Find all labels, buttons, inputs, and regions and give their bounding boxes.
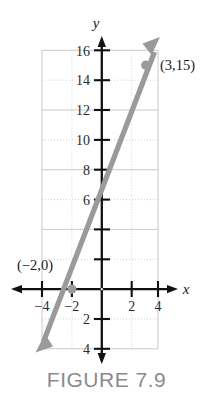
y-tick-label-16: 16 [76,44,90,59]
point-marker-3-15 [141,61,150,70]
y-tick-label-10: 10 [76,133,90,148]
figure-caption: FIGURE 7.9 [0,368,213,392]
line-arrow-lower-left [36,334,54,353]
x-tick-label-neg4: −4 [35,299,50,314]
y-tick-label-6: 6 [83,193,90,208]
x-tick-label-4: 4 [155,299,162,314]
y-tick-label-8: 8 [83,163,90,178]
x-tick-label-2: 2 [128,299,135,314]
graphed-line [36,37,161,353]
y-tick-label-14: 14 [76,73,90,88]
x-tick-label-neg2: −2 [64,299,79,314]
y-tick-label-12: 12 [76,103,90,118]
y-axis-arrow-up [98,36,106,47]
figure-container: 16 14 12 10 8 6 2 4 −4 −2 2 4 y x (−2,0)… [0,0,213,408]
point-annotation-left: (−2,0) [17,257,53,274]
y-tick-label-neg2: 2 [83,312,90,327]
line-arrow-upper-right [143,37,161,55]
coordinate-plot: 16 14 12 10 8 6 2 4 −4 −2 2 4 y x (−2,0)… [0,0,213,365]
x-axis-label: x [182,281,190,297]
point-annotation-right: (3,15) [160,57,195,74]
x-axis-arrow-left [11,285,22,293]
point-marker-minus2-0 [67,285,76,294]
line-segment [44,52,155,342]
origin-dot [100,288,103,291]
y-axis-arrow-down [98,353,106,364]
y-axis-label: y [91,15,100,31]
x-axis-arrow-right [167,285,178,293]
plot-svg: 16 14 12 10 8 6 2 4 −4 −2 2 4 y x (−2,0)… [0,0,213,365]
y-tick-label-neg4: 4 [83,342,90,357]
